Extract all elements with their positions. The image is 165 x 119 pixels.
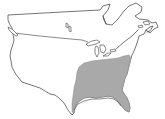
range-map bbox=[0, 0, 165, 119]
map-svg bbox=[0, 0, 165, 119]
lake-winnipeg bbox=[66, 23, 68, 28]
lake-manitoba bbox=[69, 26, 71, 32]
